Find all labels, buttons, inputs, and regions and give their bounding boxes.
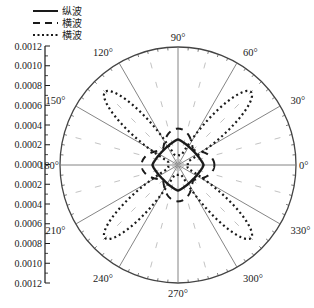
angle-label: 240°: [93, 273, 113, 284]
polar-chart: 纵波 横波 横波 0.00120.00100.00080.00060.00040…: [0, 0, 314, 308]
angle-label: 270°: [168, 288, 188, 299]
polar-grid: [60, 47, 296, 283]
angle-label: 30°: [291, 95, 306, 106]
angle-label: 180°: [39, 160, 59, 171]
radial-tick-label: 0.0004: [15, 199, 43, 210]
angle-label: 90°: [171, 32, 186, 43]
legend-label-2: 横波: [62, 29, 82, 41]
angle-label: 330°: [291, 225, 311, 236]
angle-label: 60°: [243, 47, 258, 58]
angle-label: 210°: [45, 225, 65, 236]
radial-tick-label: 0.0008: [15, 238, 43, 249]
legend: 纵波 横波 横波: [33, 5, 82, 41]
angle-label: 0°: [299, 160, 308, 171]
radial-tick-label: 0.0002: [15, 139, 43, 150]
angle-label: 150°: [45, 95, 65, 106]
radial-tick-label: 0.0012: [15, 41, 43, 52]
radial-tick-label: 0.0008: [15, 80, 43, 91]
legend-label-1: 横波: [62, 17, 82, 29]
radial-tick-label: 0.0012: [15, 278, 43, 289]
radial-tick-label: 0.0006: [15, 100, 43, 111]
angle-label: 120°: [93, 47, 113, 58]
angle-label: 300°: [243, 273, 263, 284]
radial-tick-label: 0.0006: [15, 218, 43, 229]
radial-tick-label: 0.0010: [15, 60, 43, 71]
radial-tick-label: 0.0004: [15, 120, 43, 131]
radial-tick-label: 0.0000: [15, 159, 43, 170]
radial-tick-label: 0.0002: [15, 179, 43, 190]
legend-label-0: 纵波: [62, 5, 82, 17]
radial-tick-label: 0.0010: [15, 258, 43, 269]
